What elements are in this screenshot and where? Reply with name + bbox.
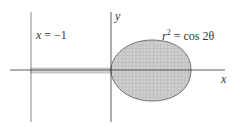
line-label-rest: = −1: [41, 28, 67, 42]
x-axis-label: x: [221, 72, 226, 87]
lemniscate-lobe: [111, 40, 191, 101]
y-axis-label: y: [115, 9, 120, 24]
line-label: x = −1: [36, 28, 67, 43]
curve-label: r2 = cos 2θ: [162, 28, 214, 44]
shaded-strip: [31, 68, 111, 73]
curve-label-rhs: = cos 2θ: [171, 29, 215, 43]
